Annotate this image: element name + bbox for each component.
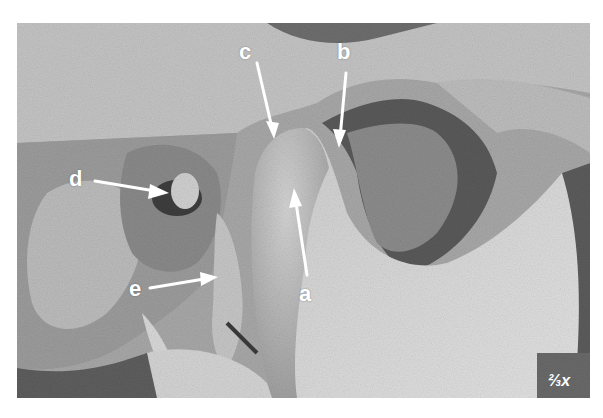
label-c: c [239, 41, 251, 63]
label-b: b [337, 41, 350, 63]
label-a: a [299, 283, 311, 305]
label-e: e [129, 278, 141, 300]
photo-illustration [17, 23, 590, 398]
anatomical-photo: c b d e a ⅔x [17, 23, 590, 398]
scale-indicator: ⅔x [548, 372, 570, 390]
caption-area [0, 398, 603, 418]
label-d: d [69, 168, 82, 190]
